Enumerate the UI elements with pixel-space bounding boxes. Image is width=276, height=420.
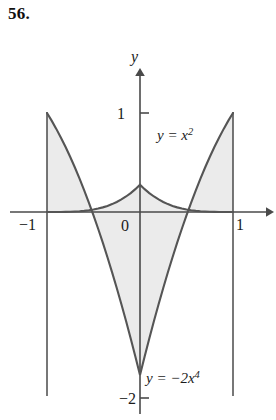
curve-label-parabola: y = x2: [155, 126, 194, 143]
x-tick-label-1: 1: [236, 216, 244, 233]
curve-label-quartic-exponent: 4: [195, 369, 201, 380]
x-tick-label-minus-1: −1: [19, 216, 36, 233]
x-axis-arrowhead: [266, 207, 274, 217]
curve-label-quartic: y = −2x4: [144, 369, 201, 386]
figure-container: 56. y −1 0 1 1 −2 y = x2: [0, 0, 276, 420]
curve-label-parabola-text: y = x: [155, 127, 188, 143]
y-axis-label: y: [129, 48, 139, 66]
origin-label: 0: [121, 217, 129, 234]
y-tick-label-1: 1: [117, 105, 125, 122]
curve-label-quartic-text: y = −2x: [144, 370, 195, 386]
curve-label-parabola-exponent: 2: [188, 126, 194, 137]
y-axis-arrowhead: [135, 68, 145, 76]
y-tick-label-minus-2: −2: [119, 390, 136, 407]
graph-svg: y −1 0 1 1 −2 y = x2 y = −2x4: [0, 0, 276, 420]
